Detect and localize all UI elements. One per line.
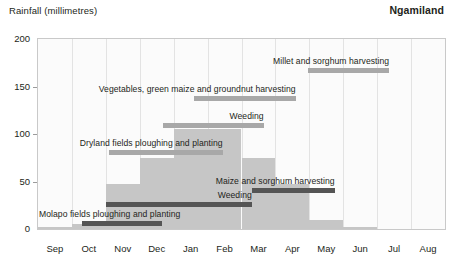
x-axis-tick-label: Oct <box>72 243 106 254</box>
x-axis-tick-label: Apr <box>275 243 309 254</box>
x-axis-tick-label: Nov <box>106 243 140 254</box>
activity-label: Vegetables, green maize and groundnut ha… <box>99 84 296 94</box>
activity-label: Millet and sorghum harvesting <box>273 56 389 66</box>
x-axis-tick-label: Jan <box>174 243 208 254</box>
gridline <box>72 39 73 229</box>
x-axis-tick-label: Jul <box>377 243 411 254</box>
activity-bar <box>252 188 335 193</box>
activity-label: Maize and sorghum harvesting <box>216 176 335 186</box>
x-axis-tick-label: Aug <box>411 243 445 254</box>
activity-bar <box>163 123 263 128</box>
rainfall-bar <box>309 220 343 230</box>
rainfall-bar <box>343 227 377 229</box>
y-axis-tick-label: 0 <box>2 223 30 234</box>
rainfall-bar <box>38 227 72 229</box>
gridline <box>411 39 412 229</box>
x-axis-tick-label: Mar <box>242 243 276 254</box>
activity-label: Dryland fields ploughing and planting <box>80 138 223 148</box>
x-axis-tick-label: Jun <box>343 243 377 254</box>
region-title: Ngamiland <box>389 4 444 16</box>
plot-area: Millet and sorghum harvestingVegetables,… <box>37 38 446 230</box>
y-axis-title: Rainfall (millimetres) <box>9 5 97 16</box>
y-axis-tick-label: 150 <box>2 81 30 92</box>
activity-label: Weeding <box>230 111 264 121</box>
activity-bar <box>109 150 223 155</box>
activity-bar <box>194 96 296 101</box>
x-axis-tick-label: Dec <box>140 243 174 254</box>
activity-bar <box>308 68 389 73</box>
chart-root: Rainfall (millimetres) Ngamiland 0501001… <box>0 0 451 271</box>
y-axis-tick-label: 100 <box>2 128 30 139</box>
x-axis-tick-label: Feb <box>208 243 242 254</box>
activity-bar <box>106 202 252 207</box>
x-axis-tick-label: Sep <box>38 243 72 254</box>
activity-bar <box>82 221 162 226</box>
y-axis-tick-label: 200 <box>2 33 30 44</box>
activity-label: Molapo fields ploughing and planting <box>39 209 180 219</box>
activity-label: Weeding <box>218 190 252 200</box>
x-axis-tick-label: May <box>309 243 343 254</box>
y-axis-tick-label: 50 <box>2 176 30 187</box>
